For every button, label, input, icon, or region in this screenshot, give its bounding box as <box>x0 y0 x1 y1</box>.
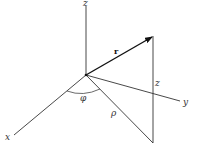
phi-label: φ <box>80 93 87 103</box>
x-axis-label: x <box>5 132 10 142</box>
x-axis-line <box>14 75 86 135</box>
rho-label: ρ <box>110 108 117 118</box>
vector-r-label: r <box>114 46 119 56</box>
y-axis-line <box>86 75 180 101</box>
cylindrical-coordinates-diagram: z x y ρ z r φ <box>0 0 202 153</box>
z-axis-label: z <box>82 0 88 8</box>
origin-point <box>85 74 88 77</box>
rho-line <box>86 75 153 143</box>
position-vector-r <box>86 37 152 75</box>
y-axis-label: y <box>182 97 189 107</box>
height-label: z <box>154 78 160 88</box>
